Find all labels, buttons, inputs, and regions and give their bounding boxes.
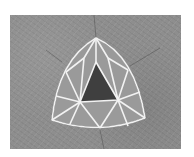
- gemstone-illustration: [0, 0, 194, 157]
